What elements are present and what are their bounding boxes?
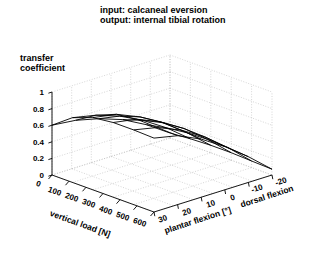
z-tick-0.4: 0.4 bbox=[18, 138, 44, 147]
z-tick-0.2: 0.2 bbox=[18, 154, 44, 163]
z-tick-0.8: 0.8 bbox=[18, 105, 44, 114]
z-tick-0: 0 bbox=[22, 171, 44, 180]
figure-root: input: calcaneal eversion output: intern… bbox=[0, 0, 319, 280]
surface-plot-canvas bbox=[0, 0, 319, 280]
z-tick-0.6: 0.6 bbox=[18, 121, 44, 130]
axis-lines bbox=[52, 92, 272, 212]
z-axis-ticks bbox=[48, 92, 52, 176]
z-tick-1: 1 bbox=[22, 88, 44, 97]
surface-mesh-lines bbox=[52, 114, 272, 169]
mesh-line-constant-flexion bbox=[170, 133, 272, 169]
